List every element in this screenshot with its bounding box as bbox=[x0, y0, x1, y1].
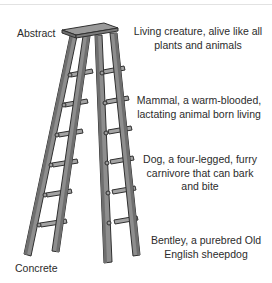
level-3-line-2: carnivore that can bark bbox=[138, 167, 262, 181]
level-2-line-1: Mammal, a warm-blooded, bbox=[124, 94, 272, 108]
level-4-description: Bentley, a purebred Old English sheepdog bbox=[142, 234, 270, 261]
level-3-line-3: and bite bbox=[138, 180, 262, 194]
abstract-label: Abstract bbox=[17, 27, 56, 40]
level-1-line-2: plants and animals bbox=[118, 39, 272, 53]
front-ladder-half bbox=[24, 36, 93, 256]
concrete-label: Concrete bbox=[15, 262, 58, 275]
level-2-description: Mammal, a warm-blooded, lactating animal… bbox=[124, 94, 272, 121]
level-1-description: Living creature, alive like all plants a… bbox=[118, 25, 272, 52]
level-3-line-1: Dog, a four-legged, furry bbox=[138, 153, 262, 167]
level-4-line-2: English sheepdog bbox=[142, 248, 270, 262]
back-ladder-half bbox=[95, 33, 140, 263]
level-3-description: Dog, a four-legged, furry carnivore that… bbox=[138, 153, 262, 194]
level-1-line-1: Living creature, alive like all bbox=[118, 25, 272, 39]
level-2-line-2: lactating animal born living bbox=[124, 108, 272, 122]
level-4-line-1: Bentley, a purebred Old bbox=[142, 234, 270, 248]
ladder-top-platform bbox=[62, 23, 118, 38]
